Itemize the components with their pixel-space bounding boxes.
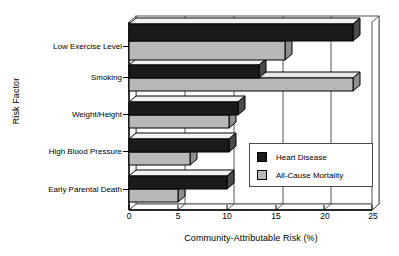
legend-item-all-cause-mortality: All-Cause Mortality	[257, 169, 343, 181]
bar-smoking-heart-disease	[129, 59, 266, 78]
legend-item-heart-disease: Heart Disease	[257, 151, 327, 163]
chart-figure: Risk Factor Community-Attributable Risk …	[0, 0, 399, 256]
bar-high-blood-pressure-heart-disease	[129, 133, 236, 152]
dark-swatch-icon	[257, 152, 267, 162]
bar-low-exercise-level-heart-disease	[129, 18, 360, 41]
legend-label-all-cause-mortality: All-Cause Mortality	[276, 171, 343, 180]
bar-early-parental-death-heart-disease	[129, 170, 234, 189]
bar-series-group	[0, 0, 399, 256]
chart-legend: Heart Disease All-Cause Mortality	[249, 143, 373, 187]
light-swatch-icon	[257, 170, 267, 180]
legend-label-heart-disease: Heart Disease	[276, 153, 327, 162]
bar-weight-height-heart-disease	[129, 96, 245, 115]
